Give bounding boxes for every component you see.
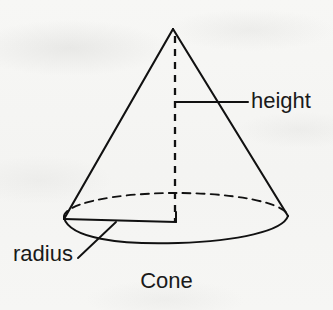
height-label: height xyxy=(251,90,311,112)
cone-figure: height radius Cone xyxy=(0,0,333,310)
cone-right-slant-line xyxy=(173,29,288,216)
figure-caption: Cone xyxy=(0,270,333,292)
cone-left-slant-line xyxy=(64,29,173,219)
radius-label: radius xyxy=(13,243,73,265)
radius-solid-line xyxy=(64,219,176,222)
